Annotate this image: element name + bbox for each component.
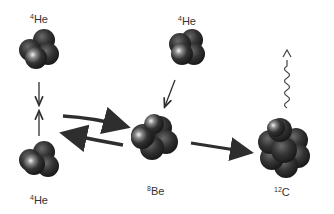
label-c12: 12C xyxy=(274,186,290,198)
gamma-photon-wavy-arrow xyxy=(285,60,290,108)
label-be8: 8Be xyxy=(147,185,164,197)
label-he4-bottom-left: 4He xyxy=(30,194,48,206)
arrow-forward-to-be8 xyxy=(63,116,124,126)
photon-arrowhead-icon xyxy=(283,50,291,57)
label-he4-top-center: 4He xyxy=(178,15,196,27)
arrow-reverse-from-be8 xyxy=(66,134,123,145)
label-he4-top-left: 4He xyxy=(30,13,48,25)
helium-4-nucleus-top-center xyxy=(169,29,205,65)
arrow-he-to-be8 xyxy=(165,80,175,106)
carbon-12-nucleus xyxy=(258,118,310,178)
beryllium-8-nucleus xyxy=(131,114,178,160)
helium-4-nucleus-bottom-left xyxy=(19,141,59,177)
arrow-be8-to-c12 xyxy=(191,143,248,152)
triple-alpha-diagram xyxy=(0,0,334,214)
helium-4-nucleus-top-left xyxy=(19,29,59,69)
